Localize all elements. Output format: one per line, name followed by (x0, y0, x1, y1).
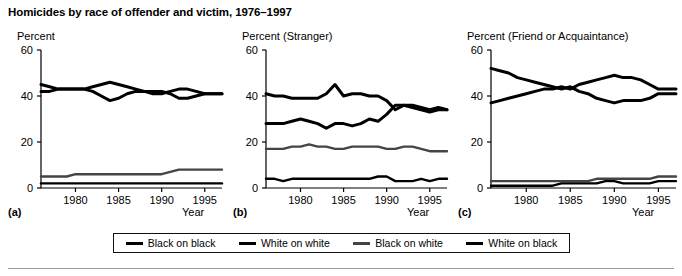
y-tick-label: 0 (27, 182, 33, 194)
x-tick-label: 1995 (418, 194, 442, 206)
panel-b-letter: (b) (233, 206, 247, 218)
plot-area: 02040601980198519901995 (450, 44, 682, 206)
axis-spine (266, 50, 447, 188)
panel-a-plot: 02040601980198519901995 (0, 44, 230, 210)
series-line (41, 170, 222, 177)
y-tick-label: 20 (21, 136, 33, 148)
y-tick-label: 60 (246, 44, 258, 56)
x-tick-label: 1995 (646, 194, 670, 206)
chart-panel-b: Percent (Stranger) 020406019801985199019… (225, 30, 453, 225)
legend-item-white_on_white: White on white (237, 237, 332, 249)
y-tick-label: 40 (246, 90, 258, 102)
plot-area: 02040601980198519901995 (225, 44, 455, 206)
y-tick-label: 40 (21, 90, 33, 102)
panel-b-xlabel: Year (407, 206, 429, 218)
y-tick-label: 0 (477, 182, 483, 194)
y-tick-label: 20 (471, 136, 483, 148)
legend-item-black_on_black: Black on black (124, 237, 218, 249)
panel-c-letter: (c) (458, 206, 471, 218)
panel-b-ylabel: Percent (Stranger) (242, 30, 332, 42)
legend-swatch-icon (466, 242, 483, 245)
x-tick-label: 1980 (288, 194, 312, 206)
series-line (266, 105, 447, 128)
legend-label: Black on white (375, 237, 443, 249)
x-tick-label: 1990 (149, 194, 173, 206)
bottom-divider (8, 268, 674, 269)
x-tick-label: 1985 (331, 194, 355, 206)
x-tick-label: 1990 (374, 194, 398, 206)
panel-b-plot: 02040601980198519901995 (225, 44, 455, 210)
x-tick-label: 1985 (558, 194, 582, 206)
axis-spine (41, 50, 222, 188)
panel-a-letter: (a) (8, 206, 21, 218)
legend-item-black_on_white: Black on white (351, 237, 445, 249)
panel-c-plot: 02040601980198519901995 (450, 44, 682, 210)
legend-swatch-icon (126, 242, 143, 245)
legend-swatch-icon (239, 242, 256, 245)
y-tick-label: 60 (471, 44, 483, 56)
x-tick-label: 1985 (106, 194, 130, 206)
y-tick-label: 20 (246, 136, 258, 148)
figure-root: Homicides by race of offender and victim… (0, 0, 682, 276)
legend-label: Black on black (148, 237, 216, 249)
x-tick-label: 1990 (602, 194, 626, 206)
x-tick-label: 1980 (514, 194, 538, 206)
series-line (491, 68, 676, 103)
panel-a-ylabel: Percent (17, 30, 55, 42)
y-tick-label: 60 (21, 44, 33, 56)
series-line (491, 177, 676, 182)
chart-panel-c: Percent (Friend or Acquaintance) 0204060… (450, 30, 682, 225)
chart-panel-a: Percent 02040601980198519901995 (a) Year (0, 30, 228, 225)
y-tick-label: 0 (252, 182, 258, 194)
legend-swatch-icon (353, 242, 370, 245)
x-tick-label: 1980 (63, 194, 87, 206)
figure-title: Homicides by race of offender and victim… (8, 6, 292, 18)
chart-legend: Black on blackWhite on whiteBlack on whi… (113, 233, 570, 253)
panel-c-ylabel: Percent (Friend or Acquaintance) (467, 30, 628, 42)
series-line (266, 85, 447, 110)
legend-item-white_on_black: White on black (464, 237, 559, 249)
series-line (266, 144, 447, 151)
axis-spine (491, 50, 676, 188)
plot-area: 02040601980198519901995 (0, 44, 230, 206)
series-line (266, 177, 447, 182)
panel-a-xlabel: Year (182, 206, 204, 218)
legend-label: White on black (488, 237, 557, 249)
legend-label: White on white (261, 237, 330, 249)
y-tick-label: 40 (471, 90, 483, 102)
x-tick-label: 1995 (193, 194, 217, 206)
panel-c-xlabel: Year (632, 206, 654, 218)
